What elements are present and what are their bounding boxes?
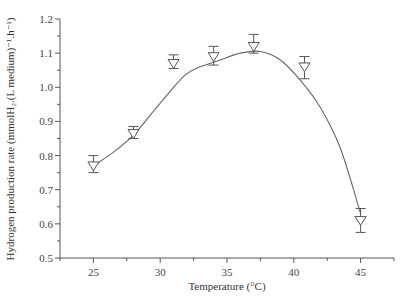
x-axis: 2530354045	[60, 258, 394, 278]
x-tick-label: 25	[88, 266, 100, 278]
data-points	[88, 34, 366, 232]
inverted-triangle-marker	[299, 63, 310, 72]
x-axis-title: Temperature (°C)	[188, 280, 266, 293]
y-axis: 0.50.60.70.80.91.01.11.2	[39, 13, 60, 264]
inverted-triangle-marker	[88, 162, 99, 171]
data-point	[88, 156, 99, 173]
data-point	[168, 55, 179, 69]
y-tick-label: 1.0	[39, 81, 53, 93]
y-tick-label: 0.5	[39, 252, 53, 264]
chart: 0.50.60.70.80.91.01.11.2 2530354045 Temp…	[0, 0, 414, 304]
data-point	[128, 127, 139, 139]
inverted-triangle-marker	[128, 130, 139, 139]
y-tick-label: 0.6	[39, 218, 53, 230]
data-point	[208, 46, 219, 65]
inverted-triangle-marker	[248, 42, 259, 51]
y-tick-label: 0.9	[39, 115, 53, 127]
inverted-triangle-marker	[208, 53, 219, 62]
data-point	[299, 57, 310, 79]
y-axis-title: Hydrogen production rate (mmolH₂.(L medi…	[4, 17, 17, 260]
inverted-triangle-marker	[355, 217, 366, 226]
x-tick-label: 30	[155, 266, 167, 278]
x-tick-label: 40	[288, 266, 300, 278]
inverted-triangle-marker	[168, 60, 179, 69]
y-tick-label: 1.2	[39, 13, 53, 25]
x-tick-label: 45	[355, 266, 367, 278]
data-point	[355, 208, 366, 232]
y-tick-label: 1.1	[39, 47, 53, 59]
y-tick-label: 0.7	[39, 184, 53, 196]
y-tick-label: 0.8	[39, 150, 53, 162]
x-tick-label: 35	[222, 266, 234, 278]
data-point	[248, 34, 259, 53]
